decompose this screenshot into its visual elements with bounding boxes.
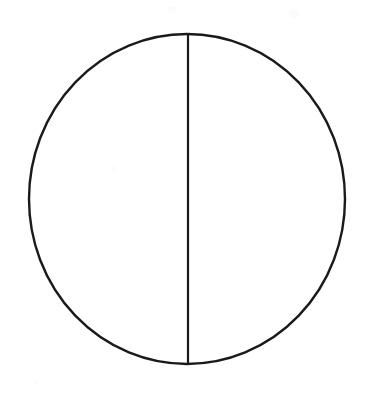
figure-canvas: Bisected Circle bbox=[0, 0, 369, 397]
diagram-background bbox=[0, 0, 369, 397]
bisected-circle-diagram bbox=[0, 0, 369, 397]
